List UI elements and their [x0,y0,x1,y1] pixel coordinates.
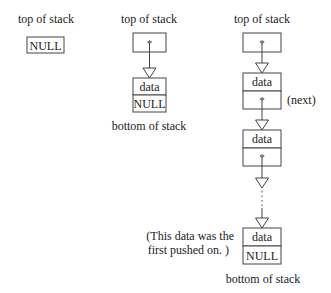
arrowhead-icon [256,218,269,228]
null-value: NULL [30,39,62,53]
first-pushed-note-line1: (This data was the [146,229,234,243]
bottom-of-stack-label: bottom of stack [112,119,187,133]
node-data-text: data [252,132,273,146]
arrowhead-icon [143,68,156,78]
top-of-stack-label: top of stack [18,12,74,26]
node-next-text: NULL [134,97,166,111]
first-pushed-note-line2: first pushed on. ) [148,243,229,257]
top-of-stack-label: top of stack [121,12,177,26]
node-data-text: data [252,230,273,244]
multi-node-stack: top of stack * data * (next) data * [146,12,315,286]
stack-diagram: top of stack NULL top of stack * data NU… [0,0,331,293]
next-annotation: (next) [287,93,316,107]
bottom-of-stack-label: bottom of stack [226,272,301,286]
arrowhead-icon [256,120,269,130]
arrowhead-icon [256,63,269,73]
one-node-stack: top of stack * data NULL bottom of stack [112,12,187,133]
stack-node-bottom: data NULL [243,228,281,264]
top-of-stack-label: top of stack [234,12,290,26]
arrowhead-icon [256,178,269,188]
empty-stack: top of stack NULL [18,12,74,53]
node-data-text: data [140,80,161,94]
node-data-text: data [252,75,273,89]
node-next-text: NULL [246,249,278,263]
